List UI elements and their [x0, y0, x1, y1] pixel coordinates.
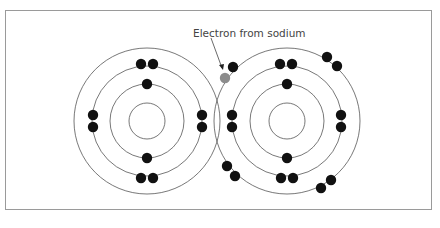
sodium-electron [148, 173, 158, 183]
sodium-electron [142, 153, 152, 163]
chlorine-electron [230, 171, 240, 181]
electron-shells [74, 48, 360, 194]
chlorine-electron [288, 173, 298, 183]
chlorine-shell-2 [250, 84, 324, 158]
chlorine-electron [282, 153, 292, 163]
chlorine-electron [222, 161, 232, 171]
sodium-shell-2 [110, 84, 184, 158]
transferred-electron [220, 73, 230, 83]
sodium-electron [136, 59, 146, 69]
sodium-electron [142, 79, 152, 89]
chlorine-electron [326, 175, 336, 185]
chlorine-electron [227, 110, 237, 120]
arrow-line [211, 38, 222, 68]
chlorine-electron [287, 59, 297, 69]
sodium-shell-1 [129, 103, 165, 139]
chlorine-electron [316, 183, 326, 193]
sodium-electron [88, 110, 98, 120]
chlorine-electron [322, 52, 332, 62]
chlorine-electron [282, 79, 292, 89]
chlorine-electron [336, 122, 346, 132]
ionic-bond-diagram: Electron from sodium [0, 0, 440, 228]
chlorine-electron [276, 173, 286, 183]
sodium-electron [148, 59, 158, 69]
chlorine-electron [228, 62, 238, 72]
electron-label: Electron from sodium [193, 27, 306, 39]
sodium-electron [88, 122, 98, 132]
chlorine-electron [275, 59, 285, 69]
sodium-electron [197, 122, 207, 132]
sodium-electron [197, 110, 207, 120]
chlorine-electron [227, 122, 237, 132]
chlorine-electron [332, 61, 342, 71]
chlorine-electron [336, 110, 346, 120]
chlorine-shell-1 [269, 103, 305, 139]
arrow-head-icon [219, 64, 224, 70]
sodium-electron [136, 173, 146, 183]
sodium-shell-4 [74, 48, 220, 194]
